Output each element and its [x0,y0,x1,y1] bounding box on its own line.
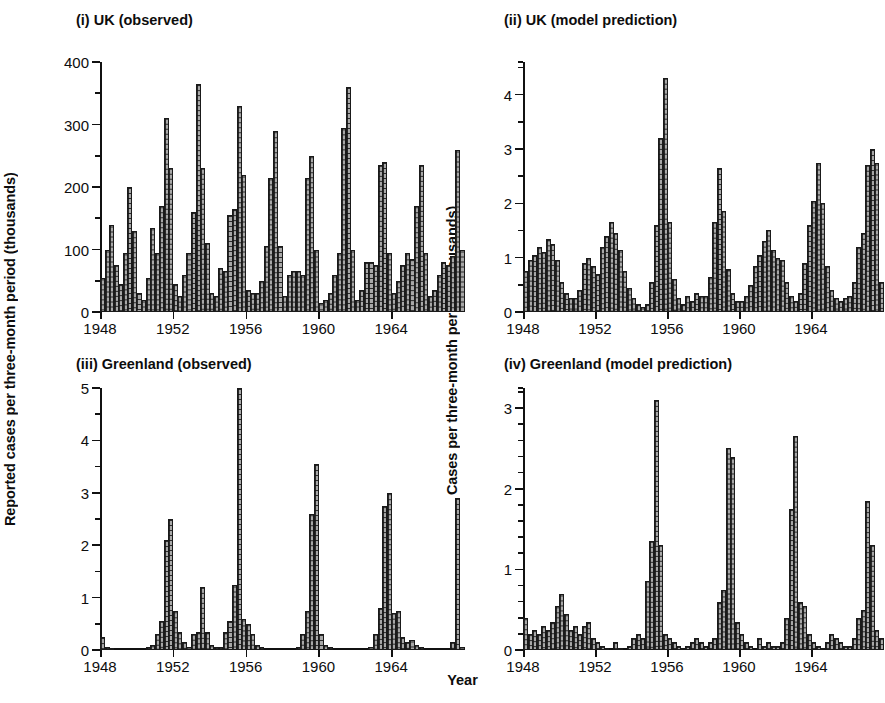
bar [618,648,623,650]
y-axis-label-left: Reported cases per three-month period (t… [2,26,18,672]
x-tick-major [667,312,669,319]
y-tick-label: 4 [81,433,89,448]
x-tick-label: 1960 [302,659,335,674]
bar-series [100,388,464,650]
y-tick-label: 2 [81,538,89,553]
bar [455,498,460,650]
y-tick-label: 1 [504,250,512,265]
x-tick-major [811,650,813,657]
y-tick-major [515,94,523,96]
y-tick-major [92,597,100,599]
panel-ii: (ii) UK (model prediction)01234194819521… [468,12,885,352]
x-tick-major [391,312,393,319]
x-tick-label: 1964 [375,659,408,674]
x-tick-major [318,650,320,657]
y-tick-major [92,492,100,494]
plot-area: 012319481952195619601964 [523,388,883,650]
y-tick-major [515,649,523,651]
panel-title: (iii) Greenland (observed) [76,356,252,372]
y-tick-major [92,544,100,546]
figure-measles-panels: Reported cases per three-month period (t… [0,0,885,703]
x-tick-label: 1960 [722,659,755,674]
x-tick-major [100,650,102,657]
x-tick-label: 1956 [650,659,683,674]
panel-iv: (iv) Greenland (model prediction)0123194… [468,356,885,690]
y-tick-major [515,407,523,409]
x-tick-label: 1952 [578,321,611,336]
x-tick-label: 1964 [794,321,827,336]
bar [259,647,264,650]
bar [419,647,424,650]
bar [314,464,319,650]
y-tick-major [92,186,100,188]
x-tick-major [246,650,248,657]
panel-title: (iv) Greenland (model prediction) [504,356,732,372]
x-tick-major [667,650,669,657]
panel-title: (ii) UK (model prediction) [504,12,677,28]
bar-series [523,388,883,650]
x-tick-label: 1960 [302,321,335,336]
x-tick-major [173,650,175,657]
panel-title: (i) UK (observed) [76,12,193,28]
x-tick-label: 1956 [229,659,262,674]
bar [459,647,464,650]
y-tick-major [92,249,100,251]
bar [604,648,609,650]
y-tick-label: 5 [81,381,89,396]
y-tick-major [515,569,523,571]
y-tick-label: 1 [504,562,512,577]
bar-series [523,62,883,312]
x-tick-label: 1964 [375,321,408,336]
y-tick-label: 400 [64,55,89,70]
y-tick-major [515,257,523,259]
x-tick-major [391,650,393,657]
x-tick-label: 1956 [229,321,262,336]
y-tick-label: 0 [81,643,89,658]
x-tick-label: 1952 [578,659,611,674]
x-tick-label: 1948 [83,659,116,674]
y-tick-major [92,440,100,442]
y-tick-label: 3 [504,141,512,156]
x-tick-label: 1952 [156,321,189,336]
y-tick-major [515,311,523,313]
x-tick-major [595,650,597,657]
x-tick-major [246,312,248,319]
x-tick-label: 1948 [83,321,116,336]
y-tick-label: 2 [504,481,512,496]
y-tick-label: 0 [504,305,512,320]
bar [879,638,884,650]
y-tick-major [515,488,523,490]
y-tick-label: 300 [64,117,89,132]
plot-area: 0123419481952195619601964 [523,62,883,312]
panel-i: (i) UK (observed)01002003004001948195219… [28,12,484,352]
x-tick-major [100,312,102,319]
y-tick-major [92,311,100,313]
panel-iii: (iii) Greenland (observed)01234519481952… [28,356,484,690]
bar [328,647,333,650]
y-tick-label: 2 [504,196,512,211]
bar [879,282,884,312]
y-tick-major [515,203,523,205]
bar-series [100,62,464,312]
bar [748,646,753,650]
y-tick-label: 200 [64,180,89,195]
bar [237,388,242,650]
x-tick-label: 1948 [506,321,539,336]
plot-area: 010020030040019481952195619601964 [100,62,464,312]
x-tick-major [523,650,525,657]
y-tick-label: 0 [81,305,89,320]
bar [109,648,114,650]
x-tick-major [173,312,175,319]
y-tick-major [92,124,100,126]
y-tick-label: 3 [504,401,512,416]
x-tick-label: 1952 [156,659,189,674]
bar [459,250,464,313]
x-tick-major [739,650,741,657]
y-tick-label: 0 [504,643,512,658]
x-tick-major [595,312,597,319]
x-tick-major [739,312,741,319]
x-tick-label: 1948 [506,659,539,674]
y-tick-major [92,649,100,651]
x-tick-label: 1964 [794,659,827,674]
x-tick-label: 1956 [650,321,683,336]
